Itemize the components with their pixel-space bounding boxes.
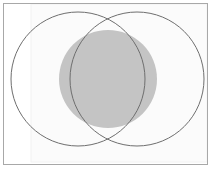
figure-diagram: [0, 0, 214, 171]
shaded-disc: [59, 30, 157, 128]
figure-canvas: [0, 0, 214, 171]
